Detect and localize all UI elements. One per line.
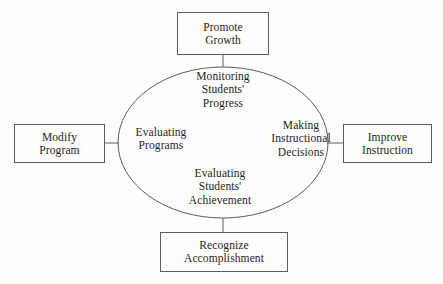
outcome-box-promote-growth: Promote Growth <box>177 12 269 55</box>
outcome-box-improve-instruction: Improve Instruction <box>343 124 432 163</box>
phase-label-monitoring-students-progress: Monitoring Students' Progress <box>173 70 273 110</box>
phase-label-line: Programs <box>120 139 202 152</box>
phase-label-line: Evaluating <box>120 126 202 139</box>
outcome-label-line: Instruction <box>362 144 413 157</box>
phase-label-evaluating-students-achievement: Evaluating Students' Achievement <box>168 167 272 207</box>
diagram-canvas: Promote Growth Improve Instruction Recog… <box>0 0 443 284</box>
phase-label-line: Progress <box>173 97 273 110</box>
outcome-box-modify-program: Modify Program <box>14 124 105 163</box>
phase-label-line: Students' <box>168 180 272 193</box>
phase-label-line: Achievement <box>168 194 272 207</box>
phase-label-line: Evaluating <box>168 167 272 180</box>
phase-label-line: Monitoring <box>173 70 273 83</box>
outcome-label-line: Growth <box>205 34 241 47</box>
outcome-label-line: Improve <box>368 131 408 144</box>
phase-label-line: Making <box>258 119 344 132</box>
outcome-label-line: Promote <box>203 21 243 34</box>
phase-label-making-instructional-decisions: Making Instructional Decisions <box>258 119 344 159</box>
phase-label-line: Students' <box>173 83 273 96</box>
outcome-label-line: Modify <box>42 131 77 144</box>
phase-label-evaluating-programs: Evaluating Programs <box>120 126 202 153</box>
outcome-box-recognize-accomplishment: Recognize Accomplishment <box>160 232 288 272</box>
outcome-label-line: Recognize <box>199 239 248 252</box>
phase-label-line: Instructional <box>258 132 344 145</box>
outcome-label-line: Accomplishment <box>184 252 264 265</box>
outcome-label-line: Program <box>39 144 79 157</box>
phase-label-line: Decisions <box>258 146 344 159</box>
